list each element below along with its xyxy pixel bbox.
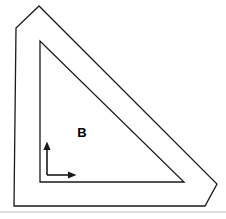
- figure-root: B: [0, 0, 226, 219]
- axis-right-arrowhead-icon: [68, 171, 77, 178]
- outer-chamfered-triangle: [14, 6, 217, 206]
- geometric-figure-canvas: B: [0, 0, 226, 219]
- inner-right-triangle: [40, 41, 184, 182]
- axis-up-arrowhead-icon: [43, 142, 50, 151]
- region-label-b: B: [77, 125, 86, 140]
- coordinate-axes-indicator: [43, 142, 76, 179]
